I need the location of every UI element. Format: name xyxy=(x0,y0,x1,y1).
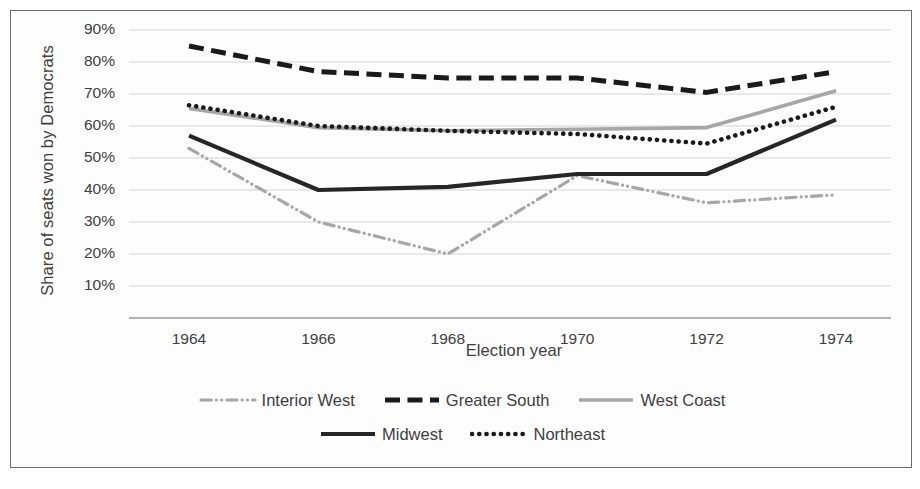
chart-legend: Interior WestGreater SouthWest CoastMidw… xyxy=(11,383,913,451)
x-tick-label: 1972 xyxy=(672,330,742,348)
y-tick-label: 20% xyxy=(51,244,115,262)
legend-label: Midwest xyxy=(382,425,443,444)
legend-label: West Coast xyxy=(640,391,725,410)
series-line-greater-south xyxy=(189,46,836,92)
y-tick-label: 50% xyxy=(51,148,115,166)
y-tick-label: 40% xyxy=(51,180,115,198)
legend-item-west-coast[interactable]: West Coast xyxy=(577,391,725,410)
legend-row: MidwestNortheast xyxy=(11,417,913,451)
legend-swatch-west-coast xyxy=(577,392,635,408)
series-lines xyxy=(189,46,836,254)
x-tick-label: 1966 xyxy=(283,330,353,348)
legend-item-interior-west[interactable]: Interior West xyxy=(199,391,355,410)
y-tick-label: 10% xyxy=(51,276,115,294)
legend-item-midwest[interactable]: Midwest xyxy=(319,425,443,444)
x-tick-label: 1964 xyxy=(154,330,224,348)
legend-item-greater-south[interactable]: Greater South xyxy=(383,391,550,410)
chart-frame: Share of seats won by Democrats Election… xyxy=(10,10,912,468)
legend-swatch-greater-south xyxy=(383,392,441,408)
legend-label: Interior West xyxy=(262,391,355,410)
legend-swatch-interior-west xyxy=(199,392,257,408)
legend-item-northeast[interactable]: Northeast xyxy=(470,425,605,444)
legend-row: Interior WestGreater SouthWest Coast xyxy=(11,383,913,417)
x-tick-label: 1968 xyxy=(413,330,483,348)
y-tick-label: 80% xyxy=(51,52,115,70)
series-line-interior-west xyxy=(189,148,836,254)
y-tick-label: 60% xyxy=(51,116,115,134)
legend-swatch-northeast xyxy=(470,426,528,442)
legend-label: Northeast xyxy=(533,425,605,444)
y-tick-label: 30% xyxy=(51,212,115,230)
y-tick-label: 90% xyxy=(51,20,115,38)
series-line-west-coast xyxy=(189,91,836,131)
legend-swatch-midwest xyxy=(319,426,377,442)
x-tick-label: 1974 xyxy=(801,330,871,348)
legend-label: Greater South xyxy=(446,391,550,410)
y-tick-label: 70% xyxy=(51,84,115,102)
x-tick-label: 1970 xyxy=(542,330,612,348)
